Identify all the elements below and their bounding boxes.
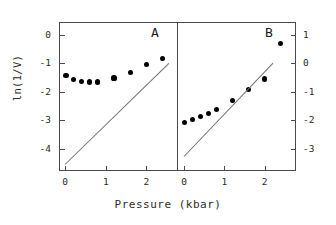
data-point <box>206 111 211 116</box>
y-tick-mark <box>291 63 296 64</box>
y-tick-label: -4 <box>0 144 51 154</box>
y-tick-mark <box>60 35 65 36</box>
data-point <box>71 77 76 82</box>
panel-a-axis-bottom <box>59 170 178 171</box>
y-tick-mark <box>291 120 296 121</box>
data-point <box>63 73 68 78</box>
data-point <box>87 79 92 84</box>
data-point <box>190 117 195 122</box>
data-point <box>160 56 165 61</box>
x-tick-label: 2 <box>136 177 156 187</box>
data-point <box>95 79 100 84</box>
y-tick-label: -2 <box>0 87 51 97</box>
x-tick-label: 0 <box>55 177 75 187</box>
x-tick-mark <box>265 166 266 171</box>
panel-a-label: A <box>151 26 159 39</box>
y-tick-label: 0 <box>0 30 51 40</box>
x-tick-mark <box>224 166 225 171</box>
panel-b-axis-left <box>177 22 178 171</box>
x-axis-label: Pressure (kbar) <box>0 198 336 211</box>
data-point <box>278 41 283 46</box>
panel-a: A <box>59 22 177 170</box>
y-tick-label: 1 <box>303 30 309 40</box>
y-tick-label: -1 <box>0 58 51 68</box>
y-tick-mark <box>291 35 296 36</box>
y-tick-mark <box>291 149 296 150</box>
x-tick-label: 1 <box>96 177 116 187</box>
panel-b-axis-top <box>178 22 296 23</box>
data-point <box>182 120 187 125</box>
data-point <box>214 107 219 112</box>
y-axis-label: ln(1/V) <box>11 23 23 133</box>
figure-root: A 0-1-2-3-4 012 B 10-1-2-3 012 Pressure … <box>0 0 336 225</box>
y-tick-label: -3 <box>0 115 51 125</box>
x-tick-mark <box>106 166 107 171</box>
x-tick-label: 0 <box>174 177 194 187</box>
data-point <box>198 114 203 119</box>
data-point <box>128 70 133 75</box>
x-tick-mark <box>184 166 185 171</box>
y-tick-mark <box>60 120 65 121</box>
x-tick-label: 1 <box>214 177 234 187</box>
x-tick-mark <box>65 166 66 171</box>
data-point <box>262 76 267 81</box>
data-point <box>111 75 116 80</box>
panel-b-label: B <box>265 26 273 39</box>
y-tick-mark <box>291 92 296 93</box>
x-tick-mark <box>146 166 147 171</box>
fit-line <box>184 63 273 157</box>
y-tick-mark <box>60 92 65 93</box>
panel-b: B <box>178 22 295 170</box>
y-tick-label: -3 <box>303 144 314 154</box>
x-tick-label: 2 <box>255 177 275 187</box>
data-point <box>144 62 149 67</box>
y-tick-mark <box>60 63 65 64</box>
panel-b-axis-bottom <box>178 170 296 171</box>
y-tick-label: -1 <box>303 87 314 97</box>
data-point <box>79 79 84 84</box>
y-tick-label: -2 <box>303 115 314 125</box>
y-tick-label: 0 <box>303 58 309 68</box>
y-tick-mark <box>60 149 65 150</box>
panel-a-axis-top <box>59 22 178 23</box>
